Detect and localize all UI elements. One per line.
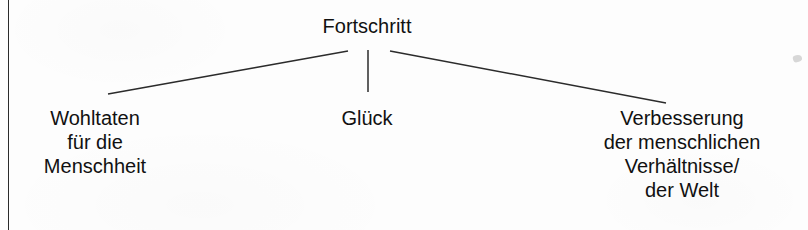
leaf-node-center: Glück — [287, 106, 447, 130]
root-node-label: Fortschritt — [0, 14, 808, 38]
leaf-node-left: Wohltaten für die Menschheit — [15, 106, 175, 178]
leaf-node-right: Verbesserung der menschlichen Verhältnis… — [592, 106, 772, 202]
leaf-right-line-1: Verbesserung — [592, 106, 772, 130]
leaf-right-line-4: der Welt — [592, 178, 772, 202]
leaf-left-line-1: Wohltaten — [15, 106, 175, 130]
leaf-left-line-3: Menschheit — [15, 154, 175, 178]
leaf-right-line-2: der menschlichen — [592, 130, 772, 154]
leaf-center-line-1: Glück — [287, 106, 447, 130]
diagram-canvas: Fortschritt Wohltaten für die Menschheit… — [0, 0, 808, 230]
connector-root-to-right — [390, 51, 666, 103]
leaf-left-line-2: für die — [15, 130, 175, 154]
connector-root-to-left — [108, 51, 348, 94]
leaf-right-line-3: Verhältnisse/ — [592, 154, 772, 178]
